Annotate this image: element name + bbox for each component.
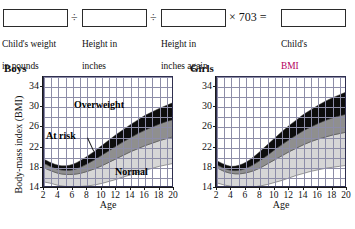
caption-line-1: Child's weight: [2, 39, 56, 49]
gridline-vertical: [268, 77, 269, 186]
gridline-horizontal: [217, 127, 345, 128]
girls-chart-title: Girls: [190, 62, 214, 74]
boys-at-risk-label: At risk: [46, 130, 76, 141]
y-tick-label: 30: [192, 100, 212, 111]
y-tick-label: 26: [19, 120, 39, 131]
gridline-vertical: [109, 77, 110, 186]
y-tick-label: 22: [19, 141, 39, 152]
childs-bmi-output[interactable]: [281, 9, 346, 27]
caption-line-1: Height in: [82, 39, 117, 49]
gridline-vertical: [217, 77, 218, 186]
gridline-horizontal: [44, 77, 172, 78]
gridline-horizontal: [44, 87, 172, 88]
y-tick-label: 22: [192, 141, 212, 152]
y-tick-label: 34: [19, 80, 39, 91]
gridline-vertical: [311, 77, 312, 186]
gridline-vertical: [80, 77, 81, 186]
bottom-axis-line: [215, 187, 346, 188]
bmi-formula-strip: ÷ ÷ × 703 = Child's weight in pounds Hei…: [0, 0, 355, 56]
boys-normal-label: Normal: [115, 166, 148, 177]
gridline-horizontal: [217, 97, 345, 98]
boys-overweight-label: Overweight: [74, 99, 124, 110]
gridline-horizontal: [44, 168, 172, 169]
left-axis-line: [42, 76, 43, 188]
x-tick-label: 20: [164, 190, 182, 201]
gridline-horizontal: [44, 148, 172, 149]
gridline-vertical: [95, 77, 96, 186]
times-703-equals-operator: × 703 =: [229, 10, 267, 24]
left-axis-line: [215, 76, 216, 188]
caption-line-2: inches: [82, 61, 106, 71]
caption-line-2-bmi: BMI: [281, 61, 299, 71]
gridline-vertical: [246, 77, 247, 186]
gridline-vertical: [340, 77, 341, 186]
gridline-horizontal: [217, 168, 345, 169]
gridline-vertical: [304, 77, 305, 186]
gridline-horizontal: [44, 158, 172, 159]
gridline-vertical: [333, 77, 334, 186]
height-inches-caption: Height in inches: [82, 28, 158, 72]
gridline-vertical: [275, 77, 276, 186]
gridline-vertical: [87, 77, 88, 186]
y-tick-label: 18: [19, 161, 39, 172]
gridline-vertical: [160, 77, 161, 186]
gridline-vertical: [260, 77, 261, 186]
gridline-vertical: [318, 77, 319, 186]
caption-line-1: Child's: [281, 39, 307, 49]
height-inches-input[interactable]: [82, 9, 147, 27]
gridline-horizontal: [217, 107, 345, 108]
divide-operator-2: ÷: [150, 10, 157, 24]
gridline-horizontal: [217, 117, 345, 118]
boys-y-axis-label: Body-mass index (BMI): [13, 78, 24, 194]
gridline-vertical: [282, 77, 283, 186]
gridline-horizontal: [44, 127, 172, 128]
gridline-horizontal: [217, 77, 345, 78]
gridline-vertical: [44, 77, 45, 186]
gridline-horizontal: [44, 117, 172, 118]
childs-bmi-caption: Child's BMI: [281, 28, 351, 72]
x-tick-label: 20: [337, 190, 355, 201]
gridline-horizontal: [217, 148, 345, 149]
height-inches-again-input[interactable]: [161, 9, 226, 27]
gridline-vertical: [102, 77, 103, 186]
gridline-vertical: [231, 77, 232, 186]
gridline-vertical: [296, 77, 297, 186]
girls-plot-area[interactable]: [216, 76, 346, 187]
gridline-horizontal: [217, 158, 345, 159]
gridline-horizontal: [217, 178, 345, 179]
gridline-vertical: [239, 77, 240, 186]
y-tick-label: 14: [192, 181, 212, 192]
gridline-vertical: [253, 77, 254, 186]
gridline-vertical: [325, 77, 326, 186]
gridline-vertical: [167, 77, 168, 186]
gridline-horizontal: [217, 138, 345, 139]
divide-operator-1: ÷: [71, 10, 78, 24]
gridline-horizontal: [217, 87, 345, 88]
y-tick-label: 18: [192, 161, 212, 172]
bottom-axis-line: [42, 187, 173, 188]
gridline-vertical: [224, 77, 225, 186]
boys-chart-title: Boys: [4, 62, 27, 74]
gridline-vertical: [152, 77, 153, 186]
childs-weight-input[interactable]: [3, 9, 68, 27]
y-tick-label: 34: [192, 80, 212, 91]
y-tick-label: 14: [19, 181, 39, 192]
caption-line-1: Height in: [161, 39, 196, 49]
gridline-horizontal: [44, 178, 172, 179]
y-tick-label: 30: [19, 100, 39, 111]
gridline-vertical: [289, 77, 290, 186]
y-tick-label: 26: [192, 120, 212, 131]
